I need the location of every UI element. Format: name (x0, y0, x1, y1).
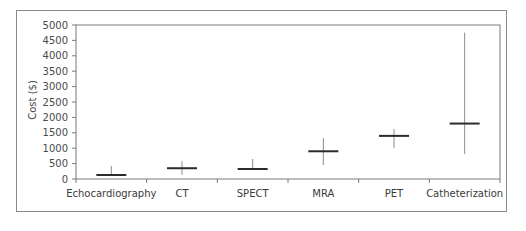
x-category-label: Catheterization (426, 188, 503, 199)
y-tick-label: 4500 (43, 35, 68, 46)
y-tick-label: 3500 (43, 66, 68, 77)
x-category-label: CT (175, 188, 189, 199)
y-tick-label: 1500 (43, 127, 68, 138)
y-tick-label: 3000 (43, 81, 68, 92)
y-tick-label: 2000 (43, 112, 68, 123)
x-category-label: MRA (312, 188, 334, 199)
y-tick-label: 0 (62, 174, 68, 185)
y-tick-label: 500 (49, 158, 68, 169)
x-category-label: SPECT (237, 188, 270, 199)
y-axis-title: Cost ($) (27, 80, 38, 120)
x-category-label: Echocardiography (66, 188, 156, 199)
y-tick-label: 4000 (43, 50, 68, 61)
plot-border (76, 25, 500, 179)
y-tick-label: 5000 (43, 20, 68, 31)
x-category-label: PET (385, 188, 404, 199)
range-chart: Cost ($) 0500100015002000250030003500400… (0, 0, 526, 231)
plot-area: 0500100015002000250030003500400045005000… (43, 20, 504, 200)
y-tick-label: 1000 (43, 143, 68, 154)
y-tick-label: 2500 (43, 97, 68, 108)
